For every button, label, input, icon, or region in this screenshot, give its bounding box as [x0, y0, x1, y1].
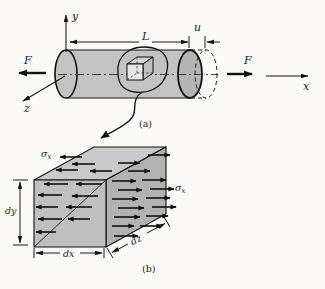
force-label-right: F	[243, 54, 252, 67]
stress-element-diagram: σx σx dy dx dz (b)	[5, 147, 186, 274]
leader-arrow	[101, 92, 142, 138]
part-b-caption: (b)	[142, 263, 156, 274]
x-axis-label: x	[303, 80, 310, 93]
dz-arrow-near	[112, 244, 128, 253]
length-dim-label: L	[141, 30, 149, 43]
bar-diagram: y z x F F L u (a)	[19, 10, 310, 138]
part-a-caption: (a)	[139, 118, 152, 129]
dz-arrow-far	[147, 224, 165, 234]
dy-label: dy	[5, 205, 17, 216]
dx-label: dx	[63, 248, 75, 259]
stress-label-right: σx	[175, 182, 186, 195]
dz-tick-near	[107, 248, 113, 258]
dz-tick-far	[164, 217, 170, 227]
u-dim-label: u	[194, 21, 201, 34]
figure-canvas: y z x F F L u (a) σx	[0, 0, 325, 289]
textbook-figure: y z x F F L u (a) σx	[0, 0, 325, 289]
force-label-left: F	[23, 54, 32, 67]
z-axis-label: z	[23, 102, 30, 115]
y-axis-label: y	[71, 10, 79, 23]
dz-label: dz	[128, 232, 144, 247]
stress-label-left: σx	[41, 148, 52, 161]
cylinder-left-cap	[55, 50, 77, 98]
